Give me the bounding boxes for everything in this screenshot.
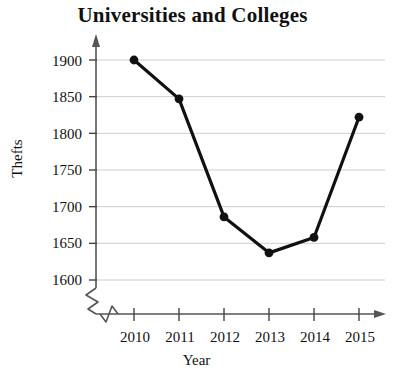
data-point-2010 <box>130 56 139 65</box>
data-point-2015 <box>355 113 364 122</box>
gridlines <box>96 60 385 280</box>
data-point-2013 <box>265 248 274 257</box>
data-point-2014 <box>310 233 319 242</box>
data-line <box>134 60 359 253</box>
line-chart: Universities and Colleges 1900 1850 1800… <box>0 0 393 379</box>
data-point-2011 <box>175 94 184 103</box>
plot-area <box>0 0 393 379</box>
axis-lines <box>86 34 386 322</box>
data-point-2012 <box>220 213 229 222</box>
